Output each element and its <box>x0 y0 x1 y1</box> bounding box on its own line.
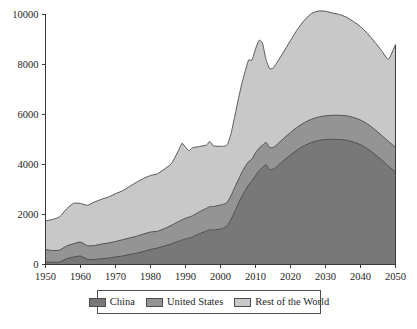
y-tick-label: 8000 <box>18 59 39 70</box>
legend-entry-united-states[interactable]: United States <box>146 297 223 308</box>
x-tick-label: 2030 <box>315 271 336 282</box>
y-tick-label: 6000 <box>18 109 39 120</box>
x-tick-label: 2050 <box>385 271 406 282</box>
x-tick-label: 1990 <box>175 271 196 282</box>
legend-swatch-rest-of-the-world <box>234 298 251 307</box>
chart-figure: 0200040006000800010000 19501960197019801… <box>0 0 417 329</box>
y-tick-label: 4000 <box>18 159 39 170</box>
x-tick-label: 2040 <box>350 271 371 282</box>
legend-swatch-china <box>89 298 106 307</box>
legend-swatch-united-states <box>146 298 163 307</box>
legend-label: China <box>110 297 135 308</box>
stacked-area-chart: 0200040006000800010000 19501960197019801… <box>0 0 417 329</box>
y-tick-label: 2000 <box>18 209 39 220</box>
x-tick-label: 2000 <box>210 271 231 282</box>
legend-entry-china[interactable]: China <box>89 297 135 308</box>
x-tick-label: 2010 <box>245 271 266 282</box>
y-tick-label: 10000 <box>12 9 38 20</box>
chart-legend: ChinaUnited StatesRest of the World <box>97 290 321 314</box>
x-tick-label: 1950 <box>35 271 56 282</box>
area-series-group <box>46 11 396 265</box>
x-tick-label: 1970 <box>105 271 126 282</box>
x-tick-label: 2020 <box>280 271 301 282</box>
legend-label: United States <box>167 297 223 308</box>
x-tick-label: 1980 <box>140 271 161 282</box>
legend-label: Rest of the World <box>255 297 329 308</box>
y-axis-tick-labels: 0200040006000800010000 <box>12 9 38 270</box>
legend-entry-rest-of-the-world[interactable]: Rest of the World <box>234 297 329 308</box>
x-tick-label: 1960 <box>70 271 91 282</box>
x-axis-tick-labels: 1950196019701980199020002010202020302040… <box>35 271 406 282</box>
y-tick-label: 0 <box>33 259 38 270</box>
